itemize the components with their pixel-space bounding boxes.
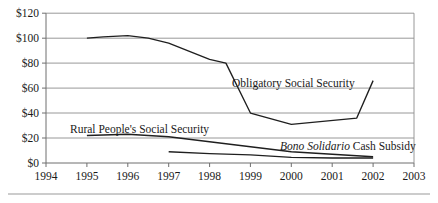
annotation-bono-solidario-cash-subsidy: Bono Solidario Cash Subsidy <box>280 140 416 153</box>
x-tick-label-2003: 2003 <box>403 170 426 182</box>
y-tick-label-0: $0 <box>28 157 40 169</box>
x-tick-label-1999: 1999 <box>239 170 262 182</box>
annotation-rural-peoples-social-security: Rural People's Social Security <box>70 123 209 136</box>
y-tick-label-60: $60 <box>22 82 40 94</box>
line-chart: $120 $100 $80 $60 $40 $20 $0 1994 1995 1… <box>0 0 438 203</box>
y-tick-label-120: $120 <box>16 7 39 19</box>
annotation-obligatory-social-security: Obligatory Social Security <box>232 77 355 90</box>
x-tick-label-1995: 1995 <box>75 170 98 182</box>
gridlines <box>46 13 414 138</box>
y-tick-marks <box>42 13 46 163</box>
y-tick-label-20: $20 <box>22 132 40 144</box>
chart-figure: $120 $100 $80 $60 $40 $20 $0 1994 1995 1… <box>0 0 438 203</box>
x-tick-marks <box>46 163 414 167</box>
annotation-bono-italic-part: Bono Solidario <box>280 140 350 152</box>
x-tick-label-1997: 1997 <box>157 170 180 182</box>
x-tick-label-1996: 1996 <box>116 170 139 182</box>
x-tick-label-2001: 2001 <box>321 170 344 182</box>
y-axis-labels: $120 $100 $80 $60 $40 $20 $0 <box>16 7 39 169</box>
x-tick-label-2000: 2000 <box>280 170 303 182</box>
x-axis-labels: 1994 1995 1996 1997 1998 1999 2000 2001 … <box>35 170 426 182</box>
y-tick-label-40: $40 <box>22 107 40 119</box>
x-tick-label-1998: 1998 <box>198 170 221 182</box>
x-tick-label-1994: 1994 <box>35 170 58 182</box>
x-tick-label-2002: 2002 <box>362 170 385 182</box>
y-tick-label-80: $80 <box>22 57 40 69</box>
annotation-bono-roman-part: Cash Subsidy <box>350 140 416 153</box>
y-tick-label-100: $100 <box>16 32 39 44</box>
